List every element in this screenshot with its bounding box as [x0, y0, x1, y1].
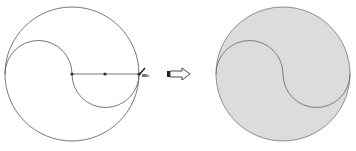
right-result: [216, 7, 350, 141]
midpoint: [103, 72, 106, 75]
s-curve-upper-arc: [5, 41, 72, 74]
right-arrow-icon: [167, 68, 190, 80]
diagram-canvas: [0, 0, 356, 151]
pencil-cursor-icon: [139, 68, 149, 77]
left-sketch: [5, 7, 149, 141]
center-point: [70, 72, 73, 75]
s-curve-lower-arc: [72, 74, 139, 108]
